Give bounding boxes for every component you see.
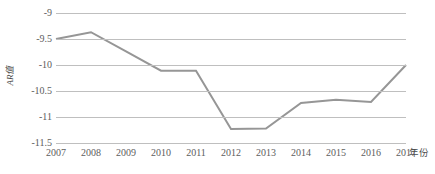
- data-series-line: [56, 32, 406, 129]
- x-axis-tick-label: 2011: [186, 147, 206, 159]
- x-axis-tick-label: 2016: [361, 147, 381, 159]
- x-axis-tick-labels: 2007200820092010201120122013201420152016…: [56, 147, 406, 163]
- x-axis-tick-label: 2012: [221, 147, 241, 159]
- x-axis-tick-label: 2007: [46, 147, 66, 159]
- x-axis-tick-label: 2008: [81, 147, 101, 159]
- y-axis-tick-label: -9.5: [18, 34, 52, 44]
- x-axis-tick-label: 2014: [291, 147, 311, 159]
- data-line-svg: [56, 13, 406, 143]
- x-axis-tick-label: 2015: [326, 147, 346, 159]
- line-chart: AR值 -9-9.5-10-10.5-11-11.5 2007200820092…: [0, 0, 435, 174]
- y-axis-tick-label: -9: [18, 8, 52, 18]
- gridline: [56, 13, 406, 14]
- x-axis-tick-label: 2009: [116, 147, 136, 159]
- x-axis-tick-label: 2013: [256, 147, 276, 159]
- plot-area: [56, 13, 406, 143]
- gridline: [56, 65, 406, 66]
- gridline: [56, 117, 406, 118]
- y-axis-tick-label: -10: [18, 60, 52, 70]
- gridline: [56, 91, 406, 92]
- y-axis-tick-label: -11: [18, 112, 52, 122]
- y-axis-tick-label: -10.5: [18, 86, 52, 96]
- gridline: [56, 143, 406, 144]
- gridline: [56, 39, 406, 40]
- x-axis-title: 年份: [409, 147, 429, 159]
- x-axis-tick-label: 2010: [151, 147, 171, 159]
